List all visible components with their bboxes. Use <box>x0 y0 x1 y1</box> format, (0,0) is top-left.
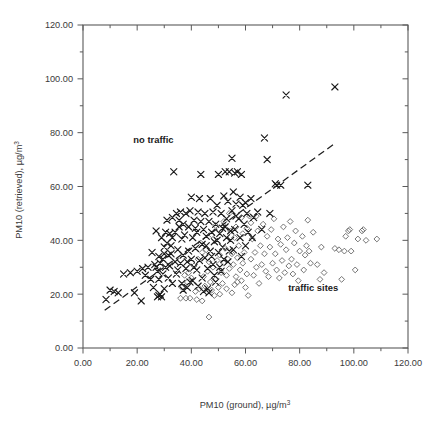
x-axis-title: PM10 (ground), µg/m3 <box>200 399 291 410</box>
x-tick-label: 40.00 <box>180 358 203 368</box>
y-axis-title: PM10 (retrieved), µg/m3 <box>13 141 24 239</box>
y-tick-label: 60.00 <box>50 182 73 192</box>
y-tick-label: 80.00 <box>50 128 73 138</box>
x-tick-label: 60.00 <box>234 358 257 368</box>
x-tick-label: 0.00 <box>74 358 92 368</box>
figure-background <box>0 0 436 427</box>
x-tick-label: 100.00 <box>340 358 368 368</box>
x-tick-label: 80.00 <box>288 358 311 368</box>
y-tick-label: 20.00 <box>50 290 73 300</box>
x-tick-label: 20.00 <box>126 358 149 368</box>
y-tick-label: 100.00 <box>45 74 73 84</box>
y-tick-label: 0.00 <box>55 343 73 353</box>
annotation-no-traffic: no traffic <box>133 134 173 145</box>
scatter-plot-svg: 0.0020.0040.0060.0080.00100.00120.00 0.0… <box>0 0 436 427</box>
chart-figure: 0.0020.0040.0060.0080.00100.00120.00 0.0… <box>0 0 436 427</box>
y-tick-label: 120.00 <box>45 20 73 30</box>
x-tick-label: 120.00 <box>394 358 422 368</box>
annotation-traffic-sites: traffic sites <box>288 282 338 293</box>
y-tick-label: 40.00 <box>50 236 73 246</box>
